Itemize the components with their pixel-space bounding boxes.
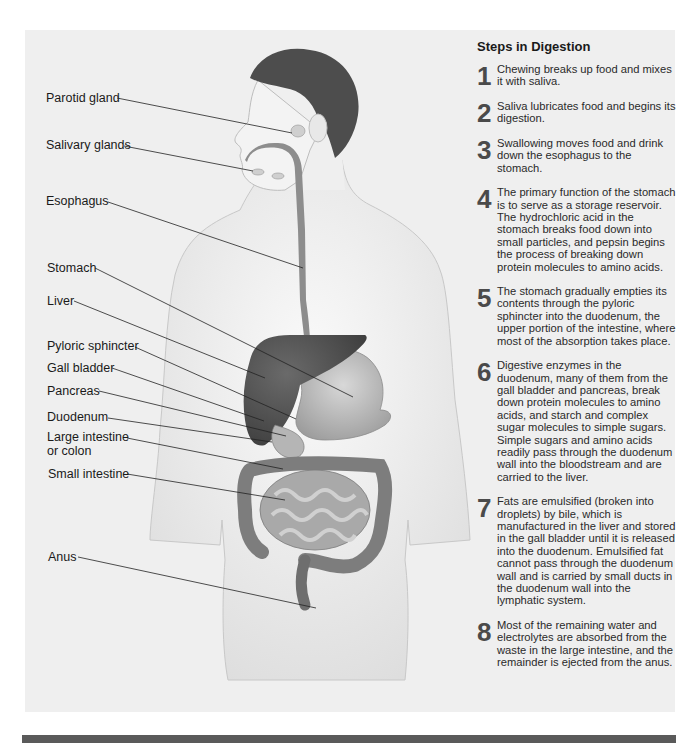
label-large-intestine: Large intestine [47, 430, 129, 445]
label-esophagus: Esophagus [46, 194, 109, 209]
label-gall-bladder: Gall bladder [47, 361, 114, 376]
bottom-divider-bar [22, 735, 676, 743]
step-number: 1 [477, 64, 497, 88]
label-pyloric-sphincter: Pyloric sphincter [47, 339, 139, 354]
step-text: Digestive enzymes in the duodenum, many … [497, 359, 677, 483]
label-liver: Liver [47, 294, 74, 309]
step-8: 8 Most of the remaining water and electr… [477, 619, 677, 669]
step-number: 5 [477, 286, 497, 310]
label-pancreas: Pancreas [47, 384, 100, 399]
step-text: Most of the remaining water and electrol… [497, 619, 677, 669]
label-anus: Anus [48, 550, 77, 565]
step-5: 5 The stomach gradually empties its cont… [477, 285, 677, 347]
label-small-intestine: Small intestine [48, 467, 129, 482]
step-7: 7 Fats are emulsified (broken into dropl… [477, 495, 677, 607]
step-text: Swallowing moves food and drink down the… [497, 137, 677, 174]
step-2: 2 Saliva lubricates food and begins its … [477, 100, 677, 125]
label-stomach: Stomach [47, 261, 96, 276]
step-text: Saliva lubricates food and begins its di… [497, 100, 677, 125]
step-6: 6 Digestive enzymes in the duodenum, man… [477, 359, 677, 483]
step-number: 6 [477, 360, 497, 384]
step-number: 2 [477, 101, 497, 125]
step-number: 7 [477, 496, 497, 520]
label-parotid-gland: Parotid gland [46, 91, 120, 106]
label-duodenum: Duodenum [47, 410, 108, 425]
step-3: 3 Swallowing moves food and drink down t… [477, 137, 677, 174]
step-number: 3 [477, 138, 497, 162]
step-number: 4 [477, 187, 497, 211]
label-large-intestine-colon: or colon [47, 444, 91, 459]
step-1: 1 Chewing breaks up food and mixes it wi… [477, 63, 677, 88]
step-text: The primary function of the stomach is t… [497, 186, 677, 273]
steps-in-digestion: Steps in Digestion 1 Chewing breaks up f… [477, 39, 677, 680]
step-text: The stomach gradually empties its conten… [497, 285, 677, 347]
step-text: Chewing breaks up food and mixes it with… [497, 63, 677, 88]
label-salivary-glands: Salivary glands [46, 138, 131, 153]
step-4: 4 The primary function of the stomach is… [477, 186, 677, 273]
step-text: Fats are emulsified (broken into droplet… [497, 495, 677, 607]
step-number: 8 [477, 620, 497, 644]
steps-title: Steps in Digestion [477, 39, 677, 54]
small-intestine-organ [260, 470, 370, 550]
